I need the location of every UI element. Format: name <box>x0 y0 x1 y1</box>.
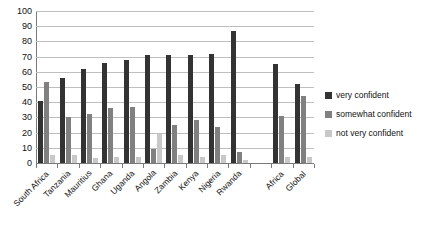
bar <box>200 157 205 163</box>
bar <box>188 55 193 163</box>
bar <box>136 157 141 163</box>
bar <box>60 78 65 163</box>
bar-group <box>79 11 100 163</box>
bar-group <box>122 11 143 163</box>
bar <box>243 160 248 163</box>
bar <box>307 157 312 163</box>
bar <box>209 54 214 163</box>
legend-label: very confident <box>336 91 389 100</box>
bar-group <box>36 11 57 163</box>
bar-group <box>143 11 164 163</box>
bar <box>102 63 107 163</box>
bar <box>81 69 86 163</box>
bar <box>172 125 177 163</box>
y-axis-tick-label: 70 <box>22 52 32 61</box>
y-axis-tick-label: 0 <box>27 159 32 168</box>
legend-item[interactable]: not very confident <box>325 124 443 143</box>
legend-swatch-icon <box>325 111 332 118</box>
bar <box>124 60 129 163</box>
y-axis-tick-label: 40 <box>22 98 32 107</box>
y-axis-tick-label: 80 <box>22 37 32 46</box>
y-axis-tick-label: 20 <box>22 128 32 137</box>
x-axis-category-label: Global <box>284 169 308 193</box>
bar <box>72 155 77 163</box>
bar <box>221 155 226 163</box>
bar-group <box>100 11 121 163</box>
bar-group <box>164 11 185 163</box>
y-axis-tick-labels: 1009080706050403020100 <box>0 11 32 163</box>
legend-swatch-icon <box>325 130 332 137</box>
bar-group <box>250 11 271 163</box>
bar <box>38 101 43 163</box>
bar <box>108 108 113 163</box>
bar <box>273 64 278 163</box>
bar <box>237 152 242 163</box>
bar-group <box>207 11 228 163</box>
bar <box>285 157 290 163</box>
y-axis-tick-label: 100 <box>17 7 32 16</box>
y-axis-tick-label: 10 <box>22 143 32 152</box>
bar <box>231 31 236 163</box>
bar <box>295 84 300 163</box>
legend-label: somewhat confident <box>336 110 412 119</box>
bar-group <box>186 11 207 163</box>
bar <box>301 96 306 163</box>
bar <box>50 155 55 163</box>
bar <box>93 158 98 163</box>
legend-swatch-icon <box>325 92 332 99</box>
y-axis-tick-label: 60 <box>22 67 32 76</box>
bar <box>166 55 171 163</box>
bar-group <box>271 11 292 163</box>
bar <box>178 155 183 163</box>
x-axis-category-labels: South AfricaTanzaniaMauritiusGhanaUganda… <box>0 168 330 235</box>
bar <box>44 82 49 163</box>
bar <box>145 55 150 163</box>
bar <box>151 149 156 163</box>
y-axis-tick-label: 90 <box>22 22 32 31</box>
bar <box>157 134 162 163</box>
bar-group <box>228 11 249 163</box>
legend-item[interactable]: somewhat confident <box>325 105 443 124</box>
y-axis-tick-label: 50 <box>22 83 32 92</box>
bar <box>215 127 220 163</box>
legend-label: not very confident <box>336 129 403 138</box>
bar <box>114 157 119 163</box>
bar <box>87 114 92 163</box>
legend-item[interactable]: very confident <box>325 86 443 105</box>
bar-group <box>57 11 78 163</box>
bar-group <box>293 11 314 163</box>
bar <box>130 107 135 163</box>
y-axis-tick-label: 30 <box>22 113 32 122</box>
bars-layer <box>36 11 314 163</box>
x-axis-category-label: Africa <box>264 169 286 191</box>
plot-area <box>36 11 314 163</box>
bar <box>66 117 71 163</box>
chart-legend: very confidentsomewhat confidentnot very… <box>325 86 443 143</box>
bar-chart: 1009080706050403020100 South AfricaTanza… <box>0 0 443 235</box>
bar <box>194 120 199 163</box>
x-axis-category-label: Zambia <box>153 169 179 195</box>
bar <box>279 116 284 163</box>
